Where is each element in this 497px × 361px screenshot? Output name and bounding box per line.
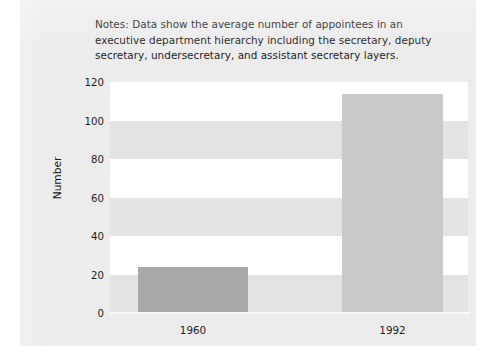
scanned-page: Notes: Data show the average number of a… <box>20 0 476 346</box>
x-axis-line <box>110 312 470 314</box>
bar-1992 <box>342 94 443 313</box>
y-axis-ticks: 020406080100120 <box>62 82 104 313</box>
y-axis-tick-label: 100 <box>64 115 104 126</box>
y-axis-label: Number <box>51 138 63 218</box>
x-axis-tick-label: 1992 <box>338 324 448 336</box>
y-axis-tick-label: 0 <box>64 308 104 319</box>
bar-1960 <box>138 267 248 313</box>
y-axis-tick-label: 20 <box>64 269 104 280</box>
chart-notes: Notes: Data show the average number of a… <box>95 17 455 64</box>
y-axis-tick-label: 80 <box>64 154 104 165</box>
y-axis-tick-label: 60 <box>64 192 104 203</box>
x-axis-tick-label: 1960 <box>138 324 248 336</box>
plot-area <box>110 82 468 313</box>
y-axis-tick-label: 120 <box>64 77 104 88</box>
y-axis-tick-label: 40 <box>64 231 104 242</box>
